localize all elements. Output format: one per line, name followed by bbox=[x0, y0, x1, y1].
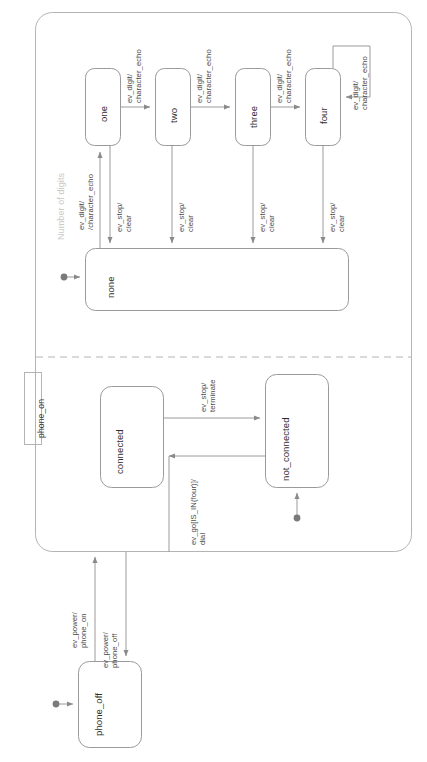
state-label-connected: connected bbox=[115, 429, 126, 474]
region-label-number-of-digits: Number of digits bbox=[56, 173, 66, 240]
state-label-four: four bbox=[319, 107, 330, 124]
initial-pseudostates bbox=[53, 274, 301, 708]
transition-label-dial: ev_go[IS_IN(four)]/ dial bbox=[190, 479, 207, 545]
initial-pseudostate-digits bbox=[61, 274, 68, 281]
transition-label-two-stop: ev_stop/ clear bbox=[178, 202, 195, 232]
state-machine-diagram: phone_on Number of digits none one two t… bbox=[0, 0, 427, 762]
state-connected bbox=[101, 387, 164, 488]
state-none bbox=[86, 249, 349, 311]
state-label-phone-off: phone_off bbox=[94, 693, 105, 736]
state-label-not-connected: not_connected bbox=[281, 417, 292, 481]
transition-label-one-to-two: ev_digit/ character_echo bbox=[126, 49, 143, 103]
composite-state-name-label: phone_on bbox=[37, 399, 47, 438]
transition-label-one-stop: ev_stop/ clear bbox=[116, 202, 133, 232]
state-label-none: none bbox=[106, 276, 117, 298]
state-not-connected bbox=[266, 375, 329, 488]
transition-label-two-to-three: ev_digit/ character_echo bbox=[196, 49, 213, 103]
transition-label-three-to-four: ev_digit/ character_echo bbox=[276, 49, 293, 103]
transition-label-terminate: ev_stop/ terminate bbox=[200, 379, 217, 412]
state-label-one: one bbox=[99, 106, 110, 122]
transition-label-four-self-loop: ev_digit/ character_echo bbox=[352, 56, 369, 110]
transition-label-power-on: ev_power/ phone_on bbox=[71, 612, 88, 648]
transition-label-three-stop: ev_stop/ clear bbox=[259, 202, 276, 232]
transition-label-power-off: ev_power/ phone_off bbox=[102, 632, 119, 668]
state-label-three: three bbox=[249, 106, 260, 128]
initial-pseudostate-connection bbox=[294, 515, 301, 522]
state-phone-off bbox=[79, 662, 142, 748]
state-label-two: two bbox=[169, 108, 180, 123]
transition-label-none-to-one: ev_digit/ /character_echo bbox=[78, 174, 95, 230]
initial-pseudostate-root bbox=[53, 701, 60, 708]
transition-label-four-stop: ev_stop/ clear bbox=[329, 202, 346, 232]
